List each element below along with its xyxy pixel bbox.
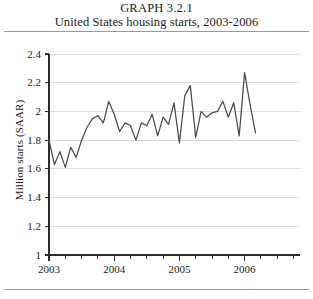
top-divider xyxy=(4,31,309,32)
y-tick-label: 2 xyxy=(11,106,41,117)
data-series xyxy=(49,73,255,168)
series-line-housing-starts xyxy=(49,73,255,168)
figure-caption: United States housing starts, 2003-2006 xyxy=(0,15,313,29)
y-tick-label: 2.2 xyxy=(11,77,41,88)
y-tick-label: 1.4 xyxy=(11,192,41,203)
figure-title-block: GRAPH 3.2.1 United States housing starts… xyxy=(0,1,313,29)
y-tick-label: 1.6 xyxy=(11,163,41,174)
x-tick-label: 2005 xyxy=(157,264,201,275)
bottom-divider xyxy=(4,289,309,290)
x-tick-label: 2003 xyxy=(27,264,71,275)
x-axis xyxy=(49,255,300,261)
y-tick-label: 2.4 xyxy=(11,49,41,60)
y-tick-label: 1 xyxy=(11,250,41,261)
chart-plot-area: Million starts (SAAR) 11.21.41.61.822.22… xyxy=(0,36,313,276)
figure-container: GRAPH 3.2.1 United States housing starts… xyxy=(0,0,313,299)
x-tick-label: 2006 xyxy=(223,264,267,275)
figure-number: GRAPH 3.2.1 xyxy=(0,1,313,15)
y-axis xyxy=(45,54,49,255)
gridlines xyxy=(49,54,300,255)
line-chart-svg xyxy=(0,36,313,276)
y-axis-label: Million starts (SAAR) xyxy=(13,70,25,230)
x-tick-label: 2004 xyxy=(92,264,136,275)
y-tick-label: 1.8 xyxy=(11,135,41,146)
y-tick-label: 1.2 xyxy=(11,221,41,232)
